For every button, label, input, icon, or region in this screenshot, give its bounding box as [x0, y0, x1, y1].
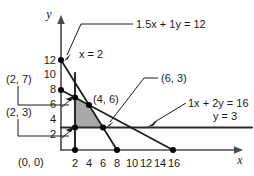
y-axis-label: y — [45, 7, 52, 21]
annotation-line-y-equals-3: y = 3 — [213, 110, 237, 122]
annotation-point-4-6: (4, 6) — [93, 93, 119, 105]
xtick-label-16: 16 — [168, 157, 180, 169]
annotation-line-x-equals-2: x = 2 — [79, 48, 103, 60]
ytick-label-6: 6 — [50, 98, 56, 110]
point-2-0 — [72, 147, 78, 153]
leader-line-1x-plus-2y — [153, 103, 186, 123]
ytick-label-12: 12 — [44, 54, 56, 66]
point-8-0 — [114, 147, 120, 153]
annotation-line-1-5x-plus-1y-equals-12: 1.5x + 1y = 12 — [136, 18, 206, 30]
annotation-point-2-7: (2, 7) — [6, 73, 32, 85]
point-0-12 — [58, 57, 64, 63]
point-6-3 — [100, 125, 106, 131]
ytick-label-10: 10 — [44, 68, 56, 80]
annotation-point-2-3: (2, 3) — [6, 106, 32, 118]
xtick-label-14: 14 — [154, 157, 166, 169]
ytick-label-2: 2 — [50, 128, 56, 140]
linear-programming-graph: y x 12 10 8 6 4 2 2 4 6 8 10 12 14 16 1.… — [0, 0, 254, 176]
xtick-label-2: 2 — [72, 157, 78, 169]
x-axis-label: x — [236, 153, 243, 167]
annotation-point-0-0: (0, 0) — [18, 156, 44, 168]
ytick-label-8: 8 — [50, 83, 56, 95]
point-16-0 — [170, 147, 176, 153]
point-4-6 — [86, 102, 92, 108]
xtick-label-8: 8 — [114, 157, 120, 169]
annotation-point-6-3: (6, 3) — [161, 72, 187, 84]
xtick-label-6: 6 — [100, 157, 106, 169]
y-axis-arrow-icon — [57, 15, 65, 24]
point-0-8 — [58, 87, 64, 93]
annotation-line-1x-plus-2y-equals-16: 1x + 2y = 16 — [188, 97, 249, 109]
xtick-label-4: 4 — [86, 157, 92, 169]
leader-arrow-1x-2y-icon — [147, 121, 158, 127]
xtick-label-10: 10 — [126, 157, 138, 169]
ytick-label-4: 4 — [50, 113, 56, 125]
xtick-label-12: 12 — [140, 157, 152, 169]
